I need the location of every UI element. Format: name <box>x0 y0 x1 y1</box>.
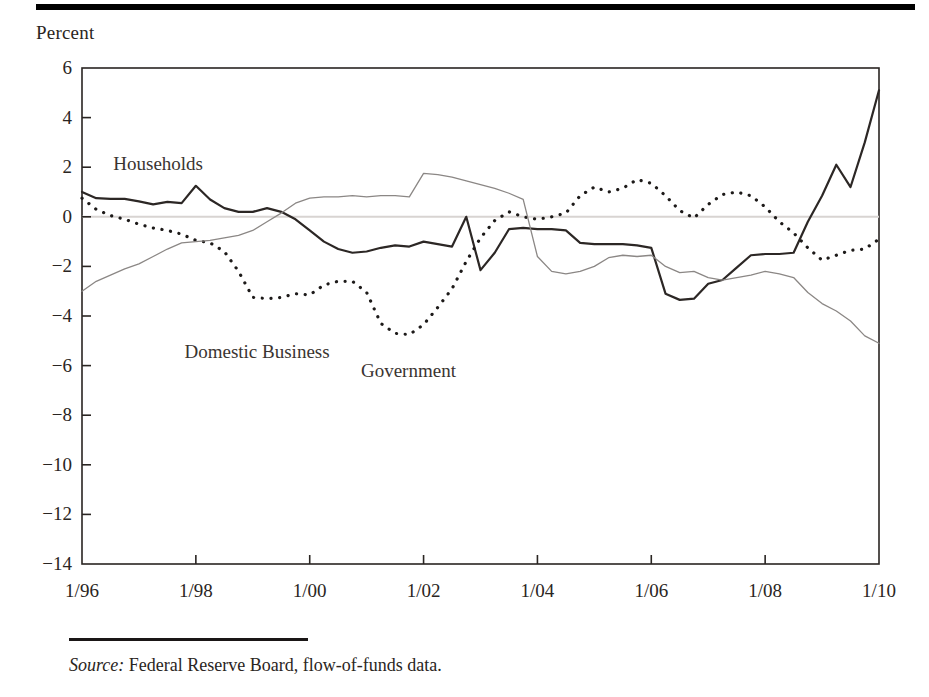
x-tick-label: 1/04 <box>521 580 555 602</box>
source-rule <box>69 638 308 641</box>
series-label-domestic-business: Domestic Business <box>184 341 329 363</box>
y-tick-label: 2 <box>20 156 72 178</box>
x-tick-label: 1/96 <box>65 580 99 602</box>
series-domestic-business <box>82 180 879 335</box>
x-tick-label: 1/00 <box>293 580 327 602</box>
y-tick-label: 0 <box>20 206 72 228</box>
source-note: Source: Federal Reserve Board, flow-of-f… <box>69 655 442 676</box>
y-tick-label: −10 <box>20 454 72 476</box>
x-tick-label: 1/98 <box>179 580 213 602</box>
axes-group <box>82 68 879 564</box>
series-label-government: Government <box>361 360 456 382</box>
y-tick-label: 4 <box>20 107 72 129</box>
series-label-households: Households <box>113 153 203 175</box>
y-tick-label: −2 <box>20 255 72 277</box>
y-tick-label: −12 <box>20 503 72 525</box>
x-tick-label: 1/06 <box>634 580 668 602</box>
x-tick-label: 1/10 <box>862 580 896 602</box>
y-tick-label: −4 <box>20 305 72 327</box>
x-tick-label: 1/02 <box>407 580 441 602</box>
source-label: Source: <box>69 655 124 675</box>
y-tick-label: 6 <box>20 57 72 79</box>
y-tick-label: −6 <box>20 355 72 377</box>
x-tick-label: 1/08 <box>748 580 782 602</box>
y-tick-label: −14 <box>20 553 72 575</box>
series-households <box>82 90 879 300</box>
series-government <box>82 173 879 343</box>
figure-panel: Percent 6420−2−4−6−8−10−12−14 1/961/981/… <box>0 0 929 697</box>
source-text: Federal Reserve Board, flow-of-funds dat… <box>124 655 441 675</box>
chart-plot-area: 6420−2−4−6−8−10−12−14 1/961/981/001/021/… <box>0 0 929 610</box>
y-tick-label: −8 <box>20 404 72 426</box>
chart-svg <box>0 0 929 610</box>
